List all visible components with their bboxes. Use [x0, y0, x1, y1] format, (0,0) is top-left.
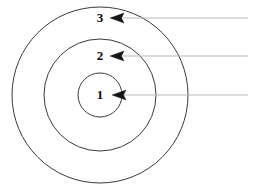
ring-label-3: 3	[97, 10, 104, 25]
arrow-head-ring-2	[110, 51, 124, 61]
arrow-head-ring-1	[112, 90, 126, 100]
ring-label-1: 1	[97, 87, 104, 102]
diagram-canvas: 3 2 1	[0, 0, 255, 193]
concentric-circles-diagram: 3 2 1	[0, 0, 255, 193]
arrow-head-ring-3	[110, 13, 124, 23]
ring-label-2: 2	[97, 48, 104, 63]
